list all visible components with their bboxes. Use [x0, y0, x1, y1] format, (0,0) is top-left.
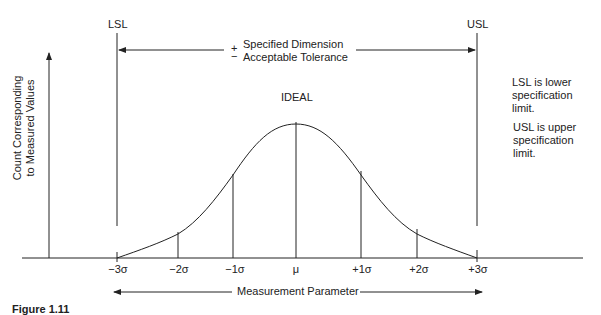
note-usl-line: limit. [513, 147, 576, 160]
note-lsl-line: limit. [512, 102, 573, 115]
tick-label-plus-2s: +2σ [409, 263, 428, 275]
tick-label-mu: μ [293, 263, 299, 275]
ideal-label: IDEAL [281, 91, 313, 104]
tick-label-plus-3s: +3σ [468, 263, 487, 275]
note-lsl-line: LSL is lower [512, 76, 573, 89]
note-lsl-line: specification [512, 89, 573, 102]
acceptable-tolerance-label: Acceptable Tolerance [243, 51, 348, 64]
tick-label-minus-2s: −2σ [169, 263, 188, 275]
tick-label-minus-3s: −3σ [108, 263, 127, 275]
y-axis-label-line1: Count Corresponding [11, 53, 24, 203]
y-axis-label: Count Corresponding to Measured Values [11, 53, 37, 203]
note-usl: USL is upper specification limit. [513, 121, 576, 160]
minus-sign: − [231, 52, 237, 60]
lsl-label: LSL [108, 18, 128, 31]
x-axis-label: Measurement Parameter [237, 285, 359, 298]
note-usl-line: USL is upper [513, 121, 576, 134]
figure-caption: Figure 1.11 [12, 303, 69, 315]
note-lsl: LSL is lower specification limit. [512, 76, 573, 115]
tick-label-minus-1s: −1σ [225, 263, 244, 275]
usl-label: USL [467, 18, 488, 31]
normal-curve [117, 124, 477, 258]
y-axis-label-line2: to Measured Values [24, 53, 37, 203]
spec-dimension-label: Specified Dimension [243, 38, 343, 51]
plus-minus-symbol: + − [231, 44, 237, 60]
note-usl-line: specification [513, 134, 576, 147]
tick-label-plus-1s: +1σ [352, 263, 371, 275]
